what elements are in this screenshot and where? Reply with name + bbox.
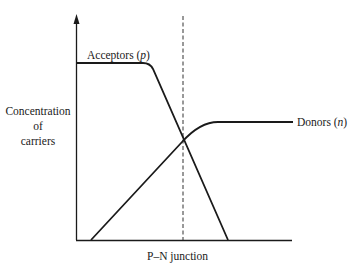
donors-curve	[91, 122, 293, 240]
y-axis-arrow-icon	[74, 14, 80, 24]
donors-label-text: Donors (	[297, 116, 338, 128]
acceptors-curve	[76, 63, 228, 240]
x-axis-label: P–N junction	[147, 249, 208, 263]
acceptors-label-text: Acceptors (	[87, 49, 140, 61]
y-axis-label-line-3: carriers	[2, 134, 74, 149]
y-axis-label: Concentration of carriers	[2, 104, 74, 149]
acceptors-label: Acceptors (p)	[87, 48, 150, 62]
y-axis-label-line-2: of	[2, 119, 74, 134]
donors-label: Donors (n)	[297, 115, 347, 129]
donors-label-var: n	[338, 116, 344, 128]
y-axis-label-line-1: Concentration	[2, 104, 74, 119]
acceptors-label-var: p	[140, 49, 146, 61]
